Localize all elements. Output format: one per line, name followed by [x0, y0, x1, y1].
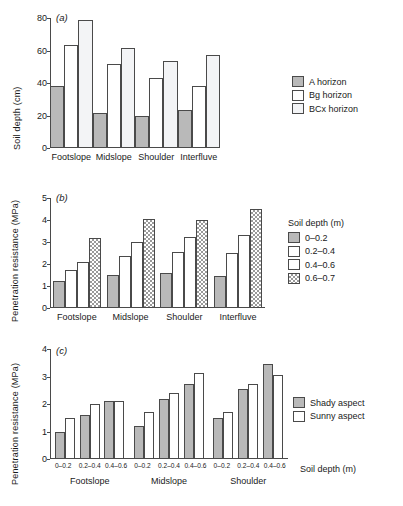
category-label: Shoulder	[158, 312, 212, 322]
bar	[184, 237, 196, 308]
depth-tick-label: 0.4–0.6	[182, 462, 208, 469]
legend-item: Shady aspect	[293, 397, 365, 408]
bar	[55, 432, 65, 460]
panel-a-legend: A horizonBg horizonBCx horizon	[292, 72, 358, 117]
legend-swatch	[292, 90, 304, 101]
legend-label: 0–0.2	[305, 233, 328, 243]
bar	[121, 48, 135, 148]
legend-item: 0.4–0.6	[288, 259, 344, 270]
bar	[149, 78, 163, 148]
panel-b-legend: Soil depth (m) 0–0.20.2–0.40.4–0.60.6–0.…	[288, 218, 344, 286]
category-label: Midslope	[93, 152, 136, 162]
bar	[192, 86, 206, 148]
y-tick-mark	[47, 459, 51, 460]
panel-c-x-axis-title: Soil depth (m)	[300, 464, 356, 474]
legend-label: 0.6–0.7	[305, 273, 335, 283]
bar	[184, 384, 194, 459]
bar	[89, 238, 101, 308]
bar	[172, 252, 184, 308]
bar	[250, 209, 262, 308]
y-tick-label: 40	[37, 79, 47, 88]
bar	[159, 399, 169, 460]
legend-item: 0–0.2	[288, 232, 344, 243]
bar	[135, 116, 149, 149]
legend-swatch	[292, 76, 304, 87]
y-tick-label: 20	[37, 111, 47, 120]
bar-pair	[263, 364, 283, 459]
bar-pair	[159, 393, 179, 459]
depth-tick-label: 0.2–0.4	[76, 462, 102, 469]
panel-a: Soil depth (cm) (a) 020406080FootslopeMi…	[0, 0, 403, 180]
bar-pair	[80, 404, 100, 459]
bar	[160, 273, 172, 308]
category-label: Footslope	[50, 476, 129, 486]
panel-b-y-axis-label: Penetration resistance (MPa)	[10, 200, 20, 322]
bar	[163, 61, 177, 148]
bar-group	[104, 198, 158, 308]
bar-pair	[55, 418, 75, 459]
bar	[214, 276, 226, 308]
bar	[194, 373, 204, 459]
bar-group	[50, 349, 129, 459]
bar-group	[93, 18, 136, 148]
legend-swatch	[292, 103, 304, 114]
bar	[134, 426, 144, 459]
depth-tick-label: 0–0.2	[129, 462, 155, 469]
depth-tick-label: 0–0.2	[50, 462, 76, 469]
depth-tick-label: 0.2–0.4	[156, 462, 182, 469]
y-tick-label: 60	[37, 46, 47, 55]
bar	[65, 418, 75, 459]
panel-c-plot-area: 012340–0.20.2–0.40.4–0.6Footslope0–0.20.…	[50, 349, 288, 459]
panel-c-y-axis-label: Penetration resistance (MPa)	[10, 363, 20, 485]
bar	[119, 256, 131, 308]
bar	[107, 64, 121, 148]
depth-tick-label: 0.2–0.4	[235, 462, 261, 469]
category-label: Interfluve	[178, 152, 221, 162]
panel-b-legend-title: Soil depth (m)	[288, 218, 344, 228]
legend-item: Sunny aspect	[293, 411, 365, 422]
bar	[64, 45, 78, 148]
bar	[238, 389, 248, 459]
legend-item: 0.2–0.4	[288, 246, 344, 257]
category-label: Interfluve	[211, 312, 265, 322]
bar	[114, 401, 124, 459]
bar	[226, 253, 238, 308]
category-label: Midslope	[129, 476, 208, 486]
bar	[144, 412, 154, 459]
bar	[273, 375, 283, 459]
legend-swatch	[293, 397, 305, 408]
bar	[238, 235, 250, 308]
bar	[143, 219, 155, 308]
legend-label: BCx horizon	[309, 104, 358, 114]
bar-group	[209, 349, 288, 459]
bar-group	[50, 198, 104, 308]
bar-group	[50, 18, 93, 148]
bar	[50, 86, 64, 148]
bar-group	[158, 198, 212, 308]
bar-group	[135, 18, 178, 148]
bar-pair	[104, 401, 124, 459]
panel-c-legend: Shady aspectSunny aspect	[293, 393, 365, 424]
bar	[223, 412, 233, 459]
panel-b-plot-area: 012345FootslopeMidslopeShoulderInterfluv…	[50, 198, 265, 308]
bar	[263, 364, 273, 459]
legend-item: 0.6–0.7	[288, 273, 344, 284]
legend-label: A horizon	[309, 77, 347, 87]
bar-pair	[238, 384, 258, 459]
legend-swatch	[288, 246, 300, 257]
category-label: Footslope	[50, 152, 93, 162]
bar-pair	[184, 373, 204, 459]
bar	[131, 242, 143, 308]
legend-label: 0.4–0.6	[305, 260, 335, 270]
bar	[65, 270, 77, 309]
panel-c: Penetration resistance (MPa) (c) 012340–…	[0, 335, 403, 506]
bar	[206, 55, 220, 148]
category-label: Midslope	[104, 312, 158, 322]
depth-tick-label: 0.4–0.6	[262, 462, 288, 469]
bar-group	[129, 349, 208, 459]
depth-tick-label: 0–0.2	[209, 462, 235, 469]
legend-label: Sunny aspect	[310, 411, 365, 421]
y-tick-mark	[47, 308, 51, 309]
panel-b: Penetration resistance (MPa) (b) 012345F…	[0, 180, 403, 335]
bar	[107, 275, 119, 308]
